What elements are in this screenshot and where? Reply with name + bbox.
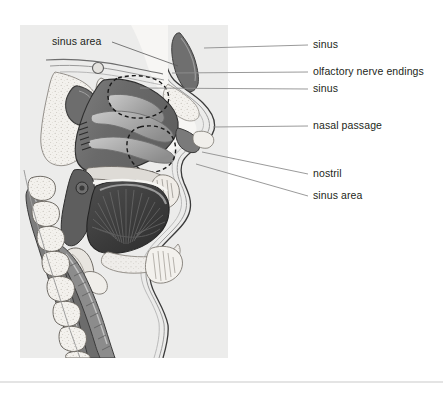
label-sinus-area-right: sinus area (313, 189, 363, 201)
vertebra-c5 (47, 276, 74, 301)
pharyngeal-recess-inner (79, 185, 84, 190)
vertebra-c2 (32, 201, 59, 226)
label-sinus-middle: sinus (313, 82, 338, 94)
label-sinus-area-left: sinus area (52, 35, 102, 47)
sella-turcica (93, 63, 104, 74)
label-nasal-passage: nasal passage (313, 119, 382, 131)
label-olfactory-nerve-endings: olfactory nerve endings (313, 65, 424, 77)
label-nostril: nostril (313, 167, 342, 179)
label-sinus-upper: sinus (313, 38, 338, 50)
vertebra-c1 (28, 176, 55, 200)
nasal-anatomy-diagram: sinus area sinus olfactory nerve endings… (0, 0, 443, 394)
anatomy-figure: sinus area sinus olfactory nerve endings… (0, 0, 443, 394)
vertebra-c6 (53, 301, 80, 326)
vertebra-c3 (37, 226, 64, 251)
